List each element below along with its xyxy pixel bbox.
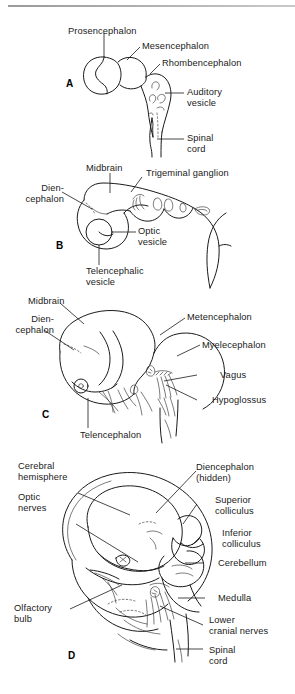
label-myelecephalon: Myelecephalon bbox=[202, 340, 266, 351]
label-midbrain-c: Midbrain bbox=[28, 296, 64, 307]
panel-d-artwork bbox=[63, 471, 212, 662]
label-prosencephalon: Prosencephalon bbox=[68, 26, 137, 37]
label-telencephalon: Telencephalon bbox=[80, 430, 141, 441]
panel-letter-b: B bbox=[56, 240, 63, 251]
label-vagus: Vagus bbox=[220, 370, 246, 381]
label-superior-colliculus: Superior colliculus bbox=[215, 495, 254, 516]
label-spinal-cord-d: Spinal cord bbox=[209, 645, 235, 666]
label-olfactory-bulb: Olfactory bulb bbox=[14, 603, 52, 624]
label-optic-vesicle: Optic vesicle bbox=[138, 226, 167, 247]
label-rhombencephalon: Rhombencephalon bbox=[162, 58, 242, 69]
label-hypoglossus: Hypoglossus bbox=[212, 395, 266, 406]
label-midbrain-b: Midbrain bbox=[86, 163, 122, 174]
label-cerebellum: Cerebellum bbox=[218, 558, 267, 569]
label-auditory-vesicle: Auditory vesicle bbox=[187, 87, 222, 108]
label-metencephalon: Metencephalon bbox=[187, 312, 252, 323]
label-diencephalon-c: Dien- cephalon bbox=[2, 314, 54, 335]
panel-letter-d: D bbox=[68, 650, 75, 661]
label-medulla: Medulla bbox=[218, 593, 251, 604]
panel-letter-c: C bbox=[42, 409, 49, 420]
label-inferior-colliculus: Inferior colliculus bbox=[222, 528, 261, 549]
panel-letter-a: A bbox=[66, 78, 73, 89]
label-cerebral-hemisphere: Cerebral hemisphere bbox=[18, 461, 68, 482]
label-telencephalic-vesicle: Telencephalic vesicle bbox=[86, 266, 144, 287]
label-spinal-cord-a: Spinal cord bbox=[187, 133, 213, 154]
panel-c-artwork bbox=[44, 303, 225, 443]
figure-brain-development: Prosencephalon Mesencephalon Rhombenceph… bbox=[0, 0, 295, 694]
label-diencephalon-hidden: Diencephalon (hidden) bbox=[196, 462, 254, 483]
label-trigeminal-ganglion: Trigeminal ganglion bbox=[146, 168, 229, 179]
top-divider-rule bbox=[8, 5, 295, 7]
label-optic-nerves: Optic nerves bbox=[18, 492, 47, 513]
label-lower-cranial-nerves: Lower cranial nerves bbox=[209, 615, 268, 636]
panel-a-artwork bbox=[83, 33, 184, 157]
label-mesencephalon: Mesencephalon bbox=[142, 41, 209, 52]
label-diencephalon-b: Dien- cephalon bbox=[12, 183, 64, 204]
